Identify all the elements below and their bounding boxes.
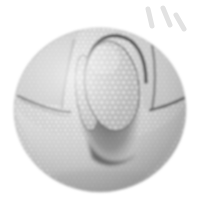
armadillo-illustration bbox=[0, 0, 200, 203]
illustration-canvas: Armadillo curled into a ball Armadillo r… bbox=[0, 0, 200, 203]
ball-shading bbox=[14, 28, 186, 192]
